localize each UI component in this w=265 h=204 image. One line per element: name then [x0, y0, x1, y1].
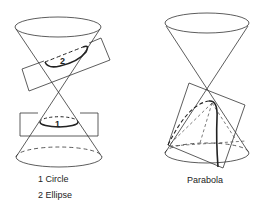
parabola-hidden-lines	[169, 103, 246, 146]
top-cone-rim	[15, 17, 101, 37]
bottom-cone-rim-back	[16, 147, 102, 157]
cone-side-left-right	[166, 26, 249, 153]
conic-sections-diagram: 2 1 1 Circle 2 Ellipse Parabola	[0, 0, 265, 204]
legend-circle: 1 Circle	[38, 174, 69, 184]
circle-marker: 1	[55, 119, 60, 129]
legend-ellipse: 2 Ellipse	[38, 190, 72, 200]
top-cone-rim-right	[165, 13, 249, 33]
ellipse-marker: 2	[60, 56, 65, 66]
bottom-cone-rim-front	[16, 157, 102, 167]
bottom-cone-rim-back-right	[165, 143, 249, 153]
left-double-cone	[15, 17, 102, 167]
right-double-cone	[165, 13, 249, 163]
ellipse-section-curve	[45, 46, 87, 67]
parabola-caption: Parabola	[187, 175, 223, 185]
